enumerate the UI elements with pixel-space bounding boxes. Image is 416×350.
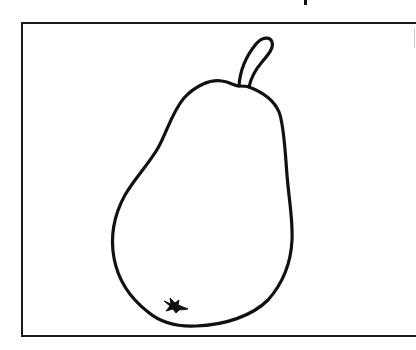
figure-stage: pear: [0, 0, 416, 350]
blossom-mark: [164, 298, 188, 313]
pear-drawing: [0, 0, 416, 350]
pear-stem: [239, 38, 272, 87]
pear-body: [112, 81, 292, 326]
